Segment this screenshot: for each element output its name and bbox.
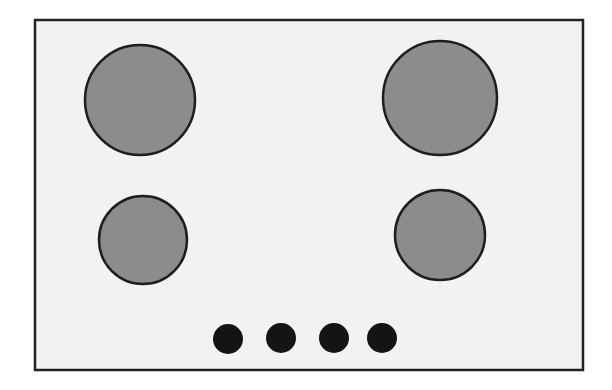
burner-small-front-left (99, 196, 187, 284)
knob-2 (266, 323, 296, 353)
knob-4 (367, 323, 397, 353)
knob-3 (319, 323, 349, 353)
burner-small-front-right (395, 190, 485, 280)
burner-large-rear-left (85, 45, 195, 155)
knob-1 (213, 324, 243, 354)
burner-large-rear-right (383, 41, 497, 155)
cooktop-diagram (0, 0, 612, 390)
